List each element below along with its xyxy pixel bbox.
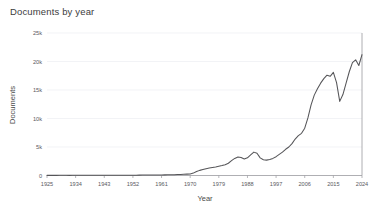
x-tick-label: 2015 xyxy=(327,181,339,187)
x-axis-title: Year xyxy=(197,194,213,203)
x-tick-label: 1970 xyxy=(184,181,196,187)
gridlines xyxy=(47,33,362,147)
y-tick-labels: 05k10k15k20k25k xyxy=(33,30,42,179)
y-tick-label: 5k xyxy=(36,144,42,150)
documents-by-year-line-chart: Documents Year 05k10k15k20k25k 192519341… xyxy=(0,0,371,213)
x-tick-label: 1961 xyxy=(155,181,167,187)
x-tick-label: 1925 xyxy=(41,181,53,187)
x-tick-label: 1943 xyxy=(98,181,110,187)
x-tick-label: 1952 xyxy=(127,181,139,187)
x-tick-label: 2024 xyxy=(356,181,368,187)
x-tick-label: 1934 xyxy=(69,181,81,187)
chart-card: Documents by year Documents Year 05k10k1… xyxy=(0,0,371,213)
y-tick-label: 20k xyxy=(33,59,42,65)
x-tick-label: 2006 xyxy=(299,181,311,187)
y-tick-label: 25k xyxy=(33,30,42,36)
y-tick-label: 15k xyxy=(33,87,42,93)
x-tick-label: 1979 xyxy=(213,181,225,187)
x-tick-labels: 1925193419431952196119701979198819972006… xyxy=(41,181,368,187)
documents-data-line xyxy=(47,55,362,176)
x-tick-label: 1997 xyxy=(270,181,282,187)
x-tick-label: 1988 xyxy=(241,181,253,187)
y-tick-label: 10k xyxy=(33,116,42,122)
y-tick-label: 0 xyxy=(39,173,42,179)
y-axis-title: Documents xyxy=(8,86,17,124)
